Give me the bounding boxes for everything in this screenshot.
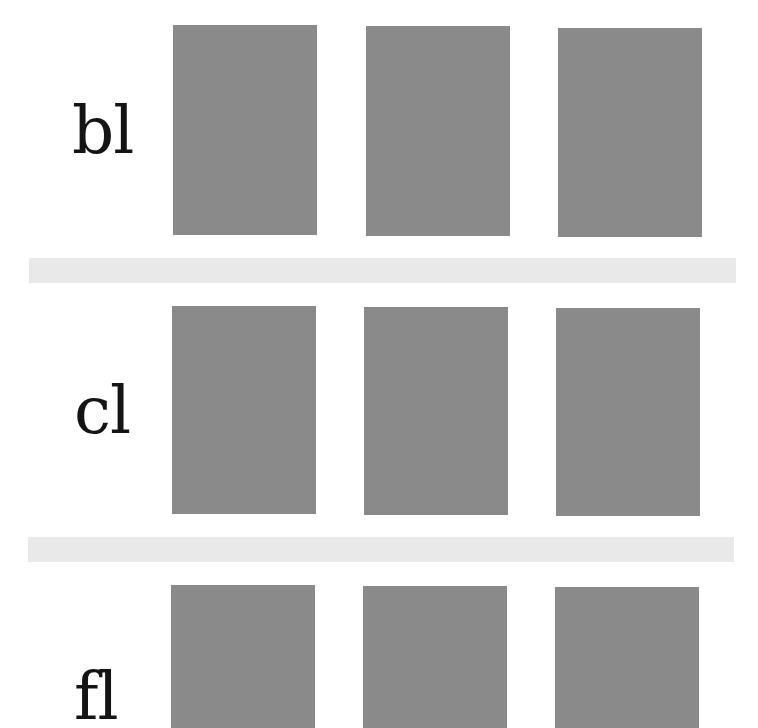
swatch-bl-2 bbox=[366, 26, 510, 236]
swatch-cl-2 bbox=[364, 307, 508, 515]
separator-1 bbox=[29, 258, 736, 283]
swatch-fl-1 bbox=[171, 585, 315, 728]
swatch-fl-3 bbox=[555, 587, 699, 728]
swatch-cl-3 bbox=[556, 308, 700, 516]
swatch-fl-2 bbox=[363, 586, 507, 728]
row-label-bl: bl bbox=[72, 98, 133, 164]
swatch-cl-1 bbox=[172, 306, 316, 514]
swatch-bl-1 bbox=[173, 25, 317, 235]
separator-2 bbox=[28, 537, 734, 562]
swatch-bl-3 bbox=[558, 28, 702, 237]
row-label-cl: cl bbox=[74, 378, 130, 444]
row-label-fl: fl bbox=[74, 664, 118, 728]
